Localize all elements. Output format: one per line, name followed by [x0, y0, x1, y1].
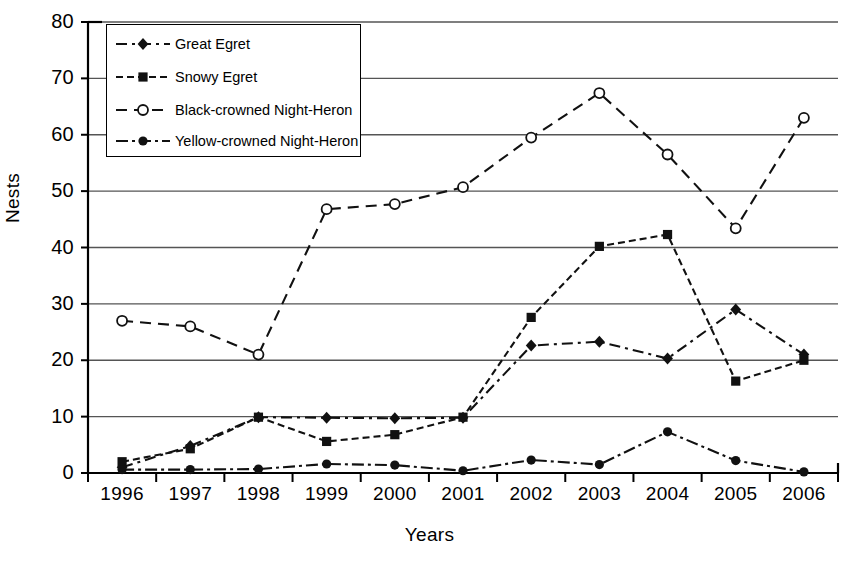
data-point: [321, 412, 332, 424]
data-point: [458, 413, 467, 422]
data-point: [186, 444, 195, 453]
legend-swatch-icon: [115, 37, 171, 51]
chart-legend: Great EgretSnowy EgretBlack-crowned Nigh…: [106, 24, 361, 157]
data-point: [117, 457, 126, 466]
data-point: [185, 321, 195, 331]
data-point: [390, 461, 399, 470]
data-point: [117, 316, 127, 326]
data-point: [731, 377, 740, 386]
data-point: [389, 412, 400, 424]
legend-swatch-icon: [115, 70, 171, 84]
data-point: [527, 313, 536, 322]
data-point: [254, 413, 263, 422]
legend-label: Black-crowned Night-Heron: [175, 102, 352, 118]
legend-swatch-icon: [115, 134, 171, 148]
data-point: [390, 430, 399, 439]
data-point: [663, 230, 672, 239]
data-point: [594, 336, 605, 348]
data-point: [730, 304, 741, 316]
data-point: [322, 437, 331, 446]
data-point: [595, 460, 604, 469]
data-point: [527, 455, 536, 464]
legend-label: Yellow-crowned Night-Heron: [175, 133, 358, 149]
data-point: [254, 464, 263, 473]
legend-item: Black-crowned Night-Heron: [115, 99, 352, 121]
data-point: [799, 356, 808, 365]
data-point: [390, 199, 400, 209]
data-point: [458, 466, 467, 475]
data-point: [322, 204, 332, 214]
data-point: [799, 113, 809, 123]
data-point: [731, 456, 740, 465]
data-point: [322, 459, 331, 468]
data-point: [663, 427, 672, 436]
data-point: [117, 465, 126, 474]
data-point: [662, 353, 673, 365]
data-point: [186, 465, 195, 474]
data-point: [731, 223, 741, 233]
data-point: [663, 149, 673, 159]
chart-figure: Nests Years 01020304050607080 1996199719…: [0, 0, 859, 564]
legend-label: Great Egret: [175, 36, 250, 52]
data-point: [594, 88, 604, 98]
legend-item: Yellow-crowned Night-Heron: [115, 130, 358, 152]
legend-swatch-icon: [115, 103, 171, 117]
legend-item: Snowy Egret: [115, 66, 257, 88]
legend-item: Great Egret: [115, 33, 250, 55]
legend-label: Snowy Egret: [175, 69, 257, 85]
data-point: [526, 133, 536, 143]
data-point: [458, 182, 468, 192]
data-point: [526, 340, 537, 352]
data-point: [799, 467, 808, 476]
data-point: [253, 350, 263, 360]
data-point: [595, 242, 604, 251]
